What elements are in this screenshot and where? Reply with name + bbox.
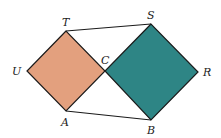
- label-R: R: [202, 66, 211, 79]
- label-C: C: [101, 54, 110, 67]
- segment-AB: [66, 111, 151, 120]
- label-A: A: [60, 116, 69, 129]
- label-B: B: [146, 124, 155, 137]
- geometry-diagram: T U A C S R B: [0, 0, 221, 138]
- segment-TS: [66, 24, 151, 31]
- label-S: S: [147, 9, 155, 22]
- left-square-TUAC: [27, 31, 105, 111]
- label-U: U: [12, 65, 22, 78]
- label-T: T: [62, 16, 71, 29]
- right-square-SCBR: [105, 24, 198, 120]
